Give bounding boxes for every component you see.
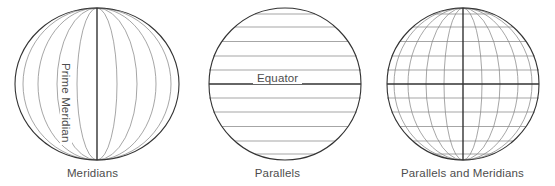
caption-parallels-and-meridians: Parallels and Meridians bbox=[370, 166, 555, 180]
caption-meridians: Meridians bbox=[0, 166, 185, 180]
prime-meridian-label: Prime Meridian bbox=[60, 60, 72, 145]
globe-grid-graphic bbox=[370, 0, 555, 168]
globe-parallels-graphic bbox=[185, 0, 370, 168]
panel-parallels: Equator Parallels bbox=[185, 0, 370, 186]
panel-meridians: Prime Meridian Meridians bbox=[0, 0, 185, 186]
equator-label: Equator bbox=[253, 72, 302, 84]
caption-parallels: Parallels bbox=[185, 166, 370, 180]
globe-diagram-figure: Prime Meridian Meridians Equator Paralle… bbox=[0, 0, 555, 186]
panel-parallels-and-meridians: Parallels and Meridians bbox=[370, 0, 555, 186]
globe-meridians-graphic bbox=[0, 0, 185, 168]
